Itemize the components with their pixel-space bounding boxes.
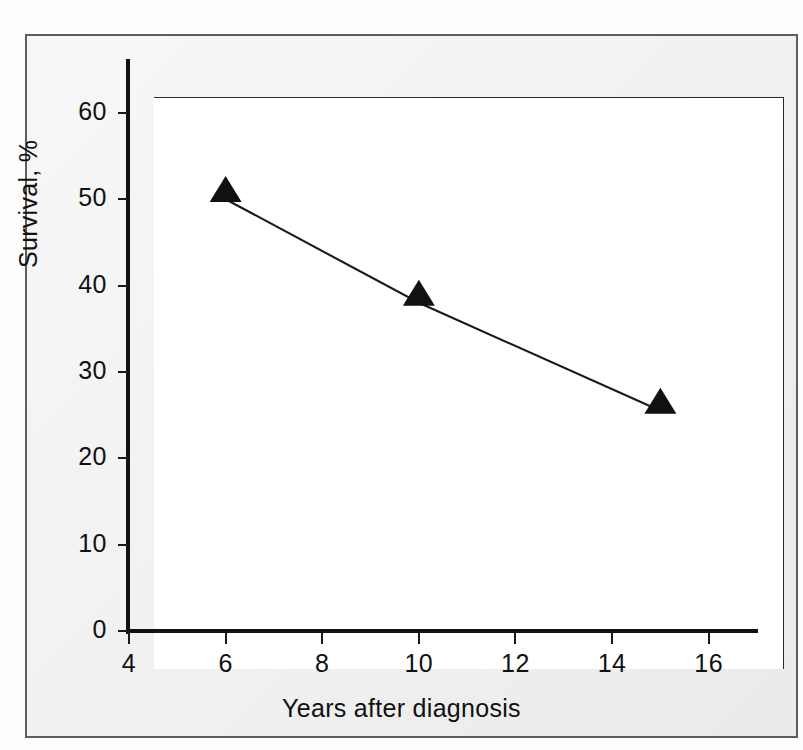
data-point-marker <box>403 280 435 306</box>
x-tick-label: 16 <box>669 649 749 678</box>
x-tick-mark <box>514 633 516 644</box>
y-axis-title: Survival, % <box>14 140 43 268</box>
y-tick-label: 20 <box>24 442 107 471</box>
x-tick-mark <box>418 633 420 644</box>
y-tick-label: 40 <box>24 270 107 299</box>
data-point-marker <box>210 176 242 202</box>
x-tick-label: 6 <box>186 649 266 678</box>
y-tick-mark <box>118 112 129 114</box>
y-tick-mark <box>118 630 129 632</box>
x-tick-label: 12 <box>475 649 555 678</box>
y-tick-mark <box>118 457 129 459</box>
series-markers <box>210 176 677 414</box>
x-tick-mark <box>225 633 227 644</box>
x-tick-label: 10 <box>379 649 459 678</box>
series-line <box>226 199 661 411</box>
x-tick-label: 14 <box>572 649 652 678</box>
y-tick-mark <box>118 198 129 200</box>
y-tick-label: 0 <box>24 615 107 644</box>
y-axis-spine <box>126 59 130 634</box>
x-tick-mark <box>708 633 710 644</box>
x-tick-mark <box>321 633 323 644</box>
x-axis-title: Years after diagnosis <box>0 694 803 723</box>
figure-page: 0102030405060 46810121416 Years after di… <box>0 0 803 750</box>
x-tick-mark <box>611 633 613 644</box>
x-tick-mark <box>128 633 130 644</box>
x-tick-label: 8 <box>282 649 362 678</box>
y-tick-mark <box>118 544 129 546</box>
y-tick-label: 60 <box>24 97 107 126</box>
y-tick-label: 10 <box>24 529 107 558</box>
y-tick-label: 30 <box>24 356 107 385</box>
y-tick-mark <box>118 285 129 287</box>
x-tick-label: 4 <box>89 649 169 678</box>
data-point-marker <box>644 388 676 414</box>
y-tick-mark <box>118 371 129 373</box>
x-axis-spine <box>126 629 758 633</box>
